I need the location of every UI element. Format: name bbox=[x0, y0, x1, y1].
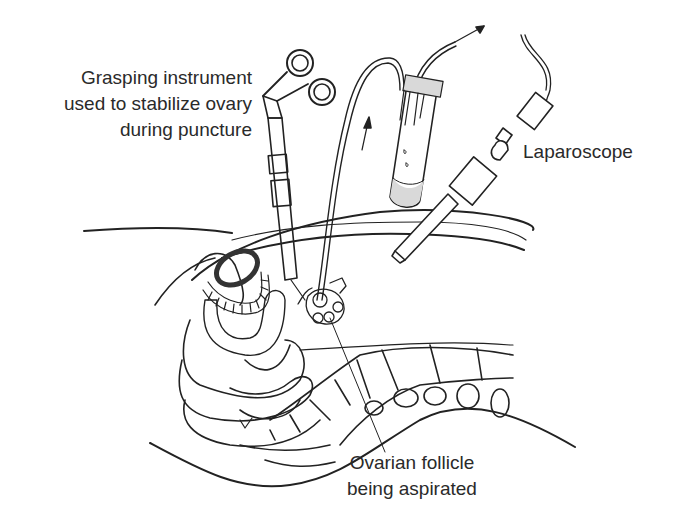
grasping-label-line1: Grasping instrument bbox=[64, 65, 252, 91]
laparoscope-label: Laparoscope bbox=[523, 139, 633, 165]
grasping-label-line3: during puncture bbox=[64, 117, 252, 143]
aspiration-needle bbox=[317, 26, 484, 300]
endometrium-band bbox=[203, 272, 269, 314]
uterus bbox=[179, 254, 335, 467]
collection-test-tube bbox=[390, 75, 443, 207]
grasping-label-line2: used to stabilize ovary bbox=[64, 91, 252, 117]
flow-arrow bbox=[362, 117, 371, 150]
illustration-stage: Grasping instrument used to stabilize ov… bbox=[0, 0, 684, 523]
follicle-label-line2: being aspirated bbox=[347, 476, 477, 502]
spine bbox=[270, 343, 513, 445]
abdominal-wall bbox=[84, 210, 533, 280]
ovary bbox=[298, 278, 346, 324]
laparoscope-label-text: Laparoscope bbox=[523, 139, 633, 165]
grasping-instrument bbox=[263, 50, 335, 300]
suction-arrow bbox=[476, 26, 484, 33]
ovarian-follicle-label: Ovarian follicle being aspirated bbox=[347, 450, 477, 502]
grasping-instrument-label: Grasping instrument used to stabilize ov… bbox=[64, 65, 252, 143]
follicle-label-line1: Ovarian follicle bbox=[347, 450, 477, 476]
